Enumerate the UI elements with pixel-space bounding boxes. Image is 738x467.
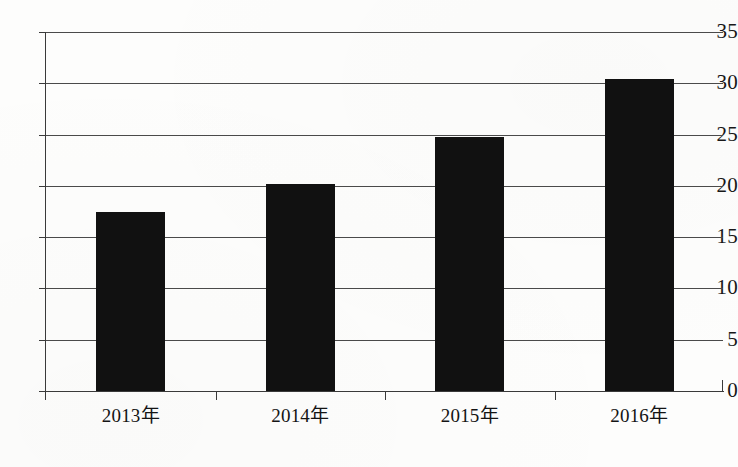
x-tick-label-2015年: 2015年: [441, 404, 499, 428]
y-tick-mark-20: [39, 186, 46, 187]
x-tick-label-2016年: 2016年: [610, 404, 668, 428]
x-tick-mark-1: [216, 391, 217, 400]
y-tick-mark-15: [39, 237, 46, 238]
bar-2013年: [96, 212, 165, 392]
x-tick-label-2013年: 2013年: [102, 404, 160, 428]
plot-area: [45, 32, 723, 391]
bar-2016年: [605, 79, 674, 391]
y-tick-mark-35: [39, 32, 46, 33]
x-tick-label-2014年: 2014年: [271, 404, 329, 428]
y-tick-mark-0: [39, 391, 46, 392]
x-tick-mark-2: [385, 391, 386, 400]
gridline-0: [45, 391, 723, 392]
y-tick-mark-30: [39, 83, 46, 84]
bar-2014年: [266, 184, 335, 391]
gridline-35: [45, 32, 723, 33]
bar-2015年: [435, 137, 504, 391]
y-tick-mark-5: [39, 340, 46, 341]
y-tick-mark-25: [39, 135, 46, 136]
x-tick-mark-3: [555, 391, 556, 400]
bar-chart: 05101520253035 2013年2014年2015年2016年: [0, 0, 738, 467]
y-tick-mark-10: [39, 288, 46, 289]
x-tick-mark-0: [45, 391, 46, 400]
